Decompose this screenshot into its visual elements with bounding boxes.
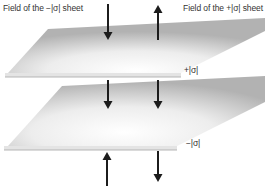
top-sheet-charge-label: +|σ| [184,65,198,75]
top-sheet [5,18,265,77]
bottom-sheet-surface [8,76,265,146]
sheets-and-arrows-graphic [0,0,265,192]
top-sheet-surface [8,18,265,73]
top-sheet-front-edge [5,73,181,77]
field-label-negative-sheet: Field of the −|σ| sheet [3,3,83,13]
field-label-positive-sheet: Field of the +|σ| sheet [183,3,263,13]
bottom-sheet [4,76,265,150]
bottom-sheet-front-edge [4,146,177,150]
field-arrow-below-sheets-left [103,152,112,186]
bottom-sheet-charge-label: −|σ| [186,138,200,148]
field-arrow-below-sheets-right [154,151,163,182]
figure-canvas: Field of the −|σ| sheet Field of the +|σ… [0,0,265,192]
